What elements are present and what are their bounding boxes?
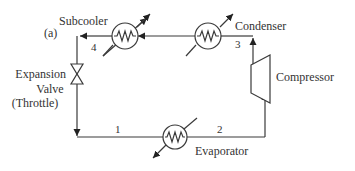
pipe-2-to-compressor [187,93,265,137]
expansion-valve-icon [71,64,83,84]
compressor-label: Compressor [276,70,334,84]
condenser-icon [186,14,233,56]
evaporator-icon [153,118,197,158]
condenser-label: Condenser [235,19,286,33]
panel-label: (a) [44,26,57,40]
refrigeration-cycle-diagram: (a) [0,0,355,171]
state-3-label: 3 [235,38,241,50]
state-4-label: 4 [91,41,97,53]
evaporator-label: Evaporator [195,144,248,158]
pipe-4-to-1 [77,36,163,137]
valve-label-line2: Valve [36,82,63,96]
compressor-icon [251,55,270,103]
subcooler-icon [103,14,150,56]
valve-label-line1: Expansion [15,67,66,81]
state-1-label: 1 [115,123,121,135]
valve-label-line3: (Throttle) [12,96,59,110]
state-2-label: 2 [217,123,223,135]
subcooler-label: Subcooler [59,14,108,28]
